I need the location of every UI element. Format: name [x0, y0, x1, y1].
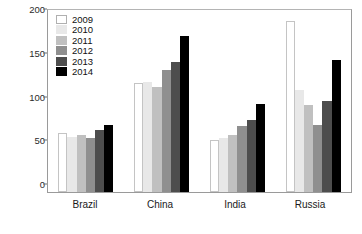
legend-label-2009: 2009: [72, 15, 93, 24]
bar-china-2010: [143, 82, 152, 192]
y-tick-label-0: 0: [0, 179, 45, 190]
legend-swatch-2010: [56, 25, 67, 34]
bar-brazil-2009: [58, 133, 67, 192]
x-axis-label-brazil: Brazil: [72, 199, 97, 210]
bar-china-2012: [162, 70, 171, 192]
legend-item-2010: 2010: [56, 25, 93, 35]
legend-item-2014: 2014: [56, 67, 93, 77]
bar-india-2011: [228, 135, 237, 192]
bar-china-2013: [171, 62, 180, 192]
legend-label-2010: 2010: [72, 25, 93, 34]
bar-india-2010: [219, 138, 228, 192]
bars-layer: [48, 10, 351, 192]
bar-russia-2012: [313, 125, 322, 192]
bar-russia-2009: [286, 21, 295, 192]
bar-india-2013: [247, 120, 256, 192]
bar-chart: 200 150 100 50 0 Brazil China India Russ…: [0, 0, 362, 234]
bar-brazil-2014: [104, 125, 113, 192]
legend-item-2013: 2013: [56, 56, 93, 66]
bar-china-2009: [134, 83, 143, 192]
bar-brazil-2010: [67, 137, 76, 192]
x-axis-label-russia: Russia: [295, 199, 326, 210]
bar-brazil-2012: [86, 138, 95, 192]
legend-item-2011: 2011: [56, 35, 93, 45]
legend-swatch-2011: [56, 36, 67, 45]
legend-label-2013: 2013: [72, 57, 93, 66]
bar-russia-2010: [295, 90, 304, 192]
bar-russia-2014: [332, 60, 341, 192]
bar-russia-2011: [304, 105, 313, 192]
bar-group-russia: [275, 10, 351, 192]
x-axis-label-china: China: [147, 199, 173, 210]
bar-group-china: [124, 10, 200, 192]
bar-china-2014: [180, 36, 189, 192]
bar-brazil-2013: [95, 130, 104, 192]
legend: 2009 2010 2011 2012 2013 2014: [56, 14, 93, 77]
legend-swatch-2014: [56, 67, 67, 76]
legend-swatch-2009: [56, 15, 67, 24]
legend-item-2012: 2012: [56, 46, 93, 56]
legend-swatch-2012: [56, 46, 67, 55]
legend-label-2014: 2014: [72, 67, 93, 76]
legend-label-2012: 2012: [72, 46, 93, 55]
legend-item-2009: 2009: [56, 14, 93, 24]
y-tick-label-50: 50: [0, 135, 45, 146]
y-tick-label-150: 150: [0, 47, 45, 58]
y-tick-label-200: 200: [0, 4, 45, 15]
bar-india-2009: [210, 140, 219, 192]
bar-india-2012: [237, 126, 246, 192]
x-axis-label-india: India: [224, 199, 246, 210]
legend-label-2011: 2011: [72, 36, 92, 45]
bar-russia-2013: [322, 101, 331, 192]
bar-china-2011: [152, 87, 161, 192]
bar-group-india: [200, 10, 276, 192]
legend-swatch-2013: [56, 57, 67, 66]
bar-india-2014: [256, 104, 265, 192]
bar-brazil-2011: [77, 135, 86, 192]
y-tick-label-100: 100: [0, 91, 45, 102]
